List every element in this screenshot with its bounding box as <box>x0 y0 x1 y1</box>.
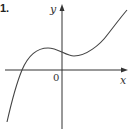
y-axis-arrow-icon <box>60 4 65 11</box>
x-axis-arrow-icon <box>121 68 128 73</box>
y-axis-label: y <box>50 3 56 16</box>
x-axis-label: x <box>120 74 126 87</box>
origin-label: 0 <box>53 72 59 83</box>
graph <box>0 0 133 129</box>
function-curve <box>7 10 127 122</box>
